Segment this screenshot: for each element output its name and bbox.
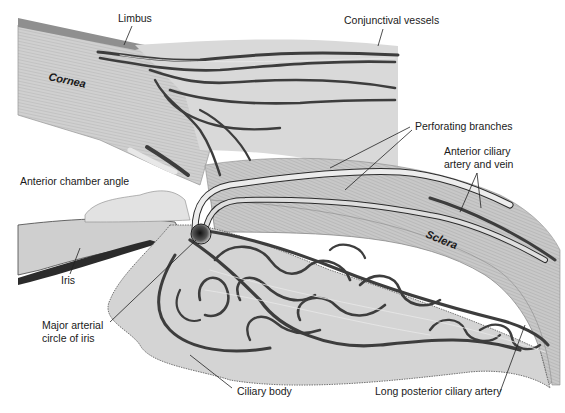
label-anterior-chamber-angle: Anterior chamber angle bbox=[20, 175, 129, 187]
label-iris: Iris bbox=[61, 274, 75, 286]
label-major-arterial-2: circle of iris bbox=[42, 332, 95, 344]
label-limbus: Limbus bbox=[118, 12, 152, 24]
label-perforating-branches: Perforating branches bbox=[415, 120, 512, 132]
label-anterior-ciliary-2: artery and vein bbox=[444, 158, 514, 170]
major-arterial-circle bbox=[191, 224, 211, 244]
leader-conjunctival-vessels bbox=[378, 29, 383, 46]
label-long-posterior-ciliary-artery: Long posterior ciliary artery bbox=[375, 385, 502, 397]
label-major-arterial-1: Major arterial bbox=[42, 319, 103, 331]
label-conjunctival-vessels: Conjunctival vessels bbox=[344, 14, 439, 26]
label-ciliary-body: Ciliary body bbox=[237, 385, 293, 397]
eye-vasculature-diagram: Limbus Conjunctival vessels Cornea Perfo… bbox=[0, 0, 565, 413]
trabecular-bump bbox=[85, 191, 190, 222]
label-anterior-ciliary-1: Anterior ciliary bbox=[444, 145, 511, 157]
